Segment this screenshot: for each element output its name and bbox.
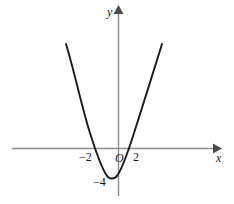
origin-label: O <box>115 152 124 164</box>
parabola-figure: y x O −2 2 −4 <box>0 0 234 204</box>
plot-canvas <box>0 0 234 204</box>
x-tick-label-pos2: 2 <box>133 151 139 163</box>
y-axis-arrow-icon <box>114 5 124 14</box>
y-axis-label: y <box>107 6 112 18</box>
x-tick-label-neg2: −2 <box>79 151 92 163</box>
y-tick-label-neg4: −4 <box>93 176 106 188</box>
x-axis-label: x <box>216 152 221 164</box>
